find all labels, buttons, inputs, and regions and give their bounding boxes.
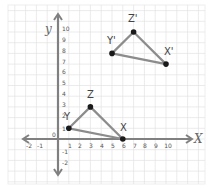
svg-text:5: 5 — [62, 79, 66, 86]
point-z-prime — [131, 29, 137, 35]
label-z: Z — [87, 89, 94, 100]
svg-text:-2: -2 — [62, 159, 68, 166]
svg-text:6: 6 — [122, 142, 126, 149]
svg-text:8: 8 — [62, 47, 66, 54]
point-y-prime — [109, 51, 115, 57]
svg-text:10: 10 — [164, 142, 172, 149]
svg-text:7: 7 — [133, 142, 137, 149]
svg-text:1: 1 — [68, 142, 72, 149]
label-x-prime: X' — [164, 46, 174, 57]
point-y — [66, 126, 72, 132]
svg-text:3: 3 — [62, 101, 66, 108]
svg-text:5: 5 — [111, 142, 115, 149]
point-x — [120, 136, 126, 142]
coordinate-plane-diagram: X y 0 -2 -1 1 2 3 4 5 6 7 8 9 10 10 9 8 … — [0, 0, 213, 194]
svg-text:9: 9 — [62, 36, 66, 43]
svg-text:4: 4 — [62, 90, 66, 97]
label-y-prime: Y' — [106, 35, 116, 46]
svg-text:7: 7 — [62, 58, 66, 65]
svg-text:10: 10 — [62, 25, 70, 32]
svg-text:1: 1 — [62, 125, 66, 132]
svg-text:4: 4 — [100, 142, 104, 149]
svg-text:2: 2 — [78, 142, 82, 149]
point-z — [88, 104, 94, 110]
svg-text:-1: -1 — [62, 148, 68, 155]
svg-text:-2: -2 — [26, 142, 32, 149]
origin-label: 0 — [52, 131, 56, 138]
x-axis-label: X — [193, 132, 203, 146]
label-z-prime: Z' — [128, 13, 138, 24]
svg-text:3: 3 — [89, 142, 93, 149]
label-y: Y — [63, 111, 71, 122]
svg-text:8: 8 — [143, 142, 147, 149]
y-axis-label: y — [44, 22, 52, 36]
label-x: X — [120, 122, 127, 133]
svg-text:6: 6 — [62, 68, 66, 75]
point-x-prime — [163, 61, 169, 67]
svg-text:-1: -1 — [37, 142, 43, 149]
svg-text:9: 9 — [154, 142, 158, 149]
